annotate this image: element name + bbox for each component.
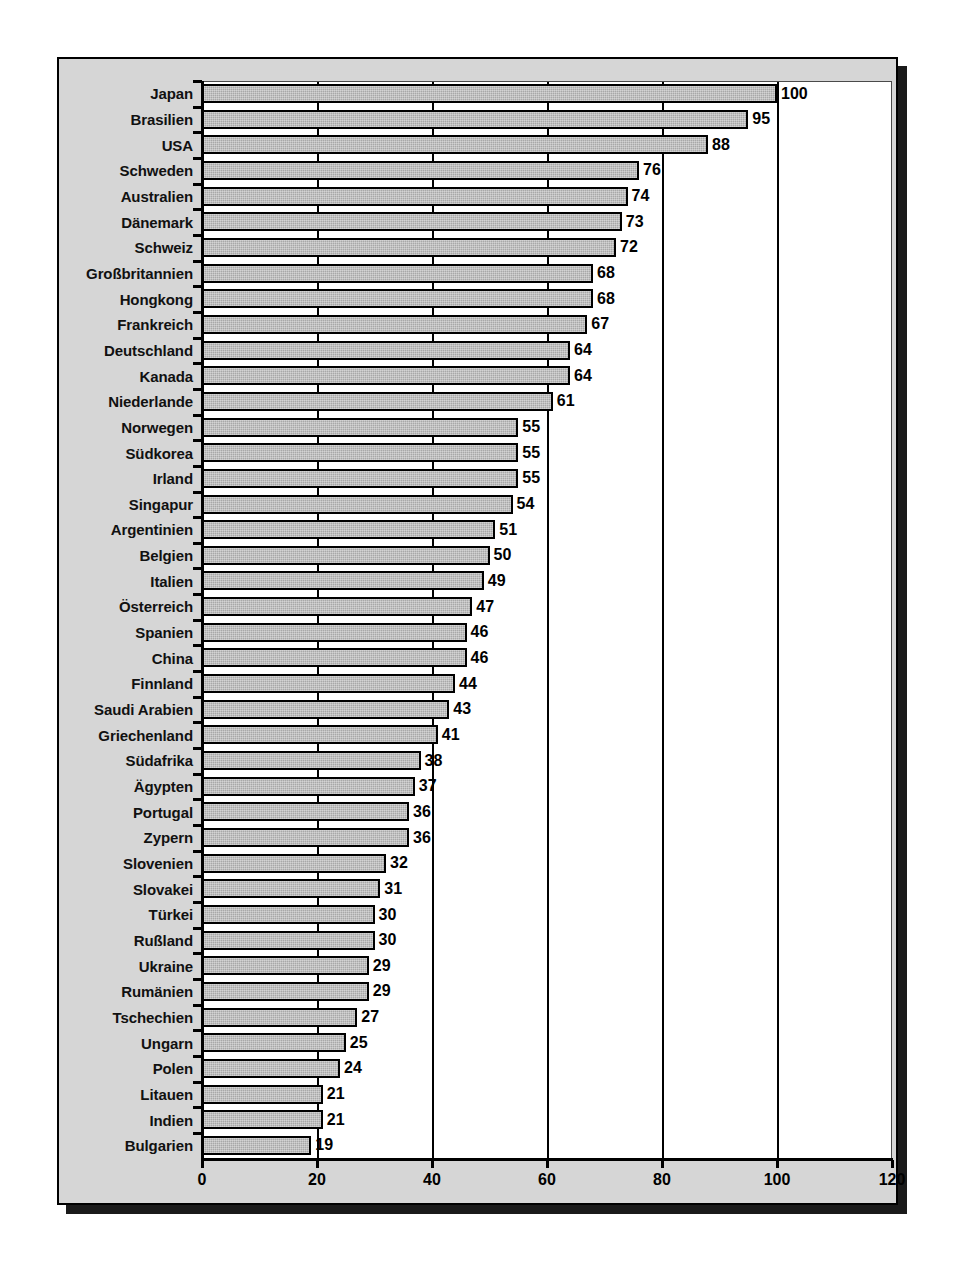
category-label: Bulgarien <box>0 1138 193 1153</box>
y-axis-tick <box>193 978 202 981</box>
bar-value-label: 51 <box>499 522 517 538</box>
bar[interactable] <box>202 1033 346 1052</box>
bar-container: 50 <box>202 546 511 565</box>
bar-value-label: 68 <box>597 265 615 281</box>
bar[interactable] <box>202 1059 340 1078</box>
bar[interactable] <box>202 289 593 308</box>
bar[interactable] <box>202 725 438 744</box>
bar-row: Finnland44 <box>59 671 900 697</box>
bar-value-label: 49 <box>488 573 506 589</box>
bar-container: 47 <box>202 597 494 616</box>
y-axis-tick <box>193 1004 202 1007</box>
bar-row: Ukraine29 <box>59 953 900 979</box>
bar-container: 44 <box>202 674 477 693</box>
bar[interactable] <box>202 264 593 283</box>
bar[interactable] <box>202 828 409 847</box>
bar-value-label: 19 <box>315 1137 333 1153</box>
category-label: Hongkong <box>0 292 193 307</box>
y-axis-tick <box>193 798 202 801</box>
category-label: Slovakei <box>0 882 193 897</box>
category-label: Japan <box>0 86 193 101</box>
bar-value-label: 47 <box>476 599 494 615</box>
category-label: Frankreich <box>0 317 193 332</box>
category-label: Niederlande <box>0 394 193 409</box>
bar-row: Japan100 <box>59 81 900 107</box>
bar[interactable] <box>202 520 495 539</box>
bar-value-label: 43 <box>453 701 471 717</box>
bar-container: 76 <box>202 161 661 180</box>
bar[interactable] <box>202 418 518 437</box>
bar[interactable] <box>202 495 513 514</box>
bar[interactable] <box>202 931 375 950</box>
bar[interactable] <box>202 161 639 180</box>
bar-container: 29 <box>202 956 391 975</box>
bar-value-label: 88 <box>712 137 730 153</box>
bar[interactable] <box>202 469 518 488</box>
bar[interactable] <box>202 1110 323 1129</box>
bar-row: Australien74 <box>59 184 900 210</box>
bar[interactable] <box>202 135 708 154</box>
bar[interactable] <box>202 751 421 770</box>
bar[interactable] <box>202 623 467 642</box>
y-axis-tick <box>193 439 202 442</box>
y-axis-tick <box>193 285 202 288</box>
bar[interactable] <box>202 187 628 206</box>
bar[interactable] <box>202 1085 323 1104</box>
bar-row: Zypern36 <box>59 825 900 851</box>
bar[interactable] <box>202 366 570 385</box>
bar[interactable] <box>202 879 380 898</box>
bar[interactable] <box>202 700 449 719</box>
category-label: Türkei <box>0 907 193 922</box>
bar[interactable] <box>202 1136 311 1155</box>
category-label: Polen <box>0 1061 193 1076</box>
bar-container: 25 <box>202 1033 368 1052</box>
category-label: USA <box>0 138 193 153</box>
bar[interactable] <box>202 597 472 616</box>
bar[interactable] <box>202 802 409 821</box>
bar-row: Italien49 <box>59 568 900 594</box>
bar-row: Rußland30 <box>59 928 900 954</box>
y-axis-tick <box>193 644 202 647</box>
category-label: Tschechien <box>0 1010 193 1025</box>
bar[interactable] <box>202 956 369 975</box>
bar[interactable] <box>202 982 369 1001</box>
category-label: Portugal <box>0 805 193 820</box>
bar[interactable] <box>202 854 386 873</box>
bar-value-label: 55 <box>522 470 540 486</box>
bar[interactable] <box>202 571 484 590</box>
bar[interactable] <box>202 648 467 667</box>
y-axis-tick <box>193 875 202 878</box>
bar[interactable] <box>202 315 587 334</box>
y-axis-tick <box>193 208 202 211</box>
category-label: Ukraine <box>0 959 193 974</box>
bar-row: USA88 <box>59 132 900 158</box>
bar[interactable] <box>202 341 570 360</box>
bar[interactable] <box>202 905 375 924</box>
bar-container: 38 <box>202 751 442 770</box>
bar-value-label: 32 <box>390 855 408 871</box>
x-axis-tick-label: 0 <box>198 1171 207 1189</box>
bar-row: Irland55 <box>59 466 900 492</box>
bar[interactable] <box>202 238 616 257</box>
bar-container: 64 <box>202 341 592 360</box>
bar[interactable] <box>202 392 553 411</box>
bar[interactable] <box>202 212 622 231</box>
y-axis-tick <box>193 388 202 391</box>
bar-value-label: 41 <box>442 727 460 743</box>
bar[interactable] <box>202 110 748 129</box>
category-label: Schweiz <box>0 240 193 255</box>
bar[interactable] <box>202 674 455 693</box>
bar[interactable] <box>202 1008 357 1027</box>
bar-row: Großbritannien68 <box>59 261 900 287</box>
category-label: Belgien <box>0 548 193 563</box>
bar-row: Niederlande61 <box>59 389 900 415</box>
x-axis-tick-label: 40 <box>423 1171 441 1189</box>
bar[interactable] <box>202 443 518 462</box>
bar[interactable] <box>202 777 415 796</box>
y-axis-tick <box>193 1029 202 1032</box>
category-label: Griechenland <box>0 728 193 743</box>
bar-container: 19 <box>202 1136 333 1155</box>
bar[interactable] <box>202 546 490 565</box>
category-label: Zypern <box>0 830 193 845</box>
bar[interactable] <box>202 84 777 103</box>
